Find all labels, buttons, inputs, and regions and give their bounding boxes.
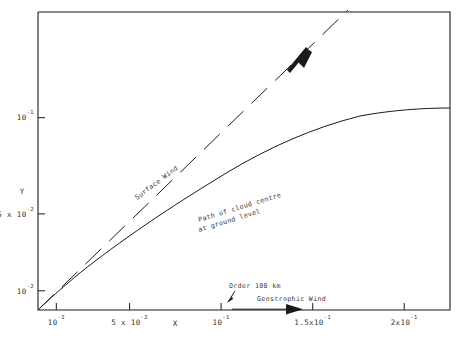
- x-tick-label-1: 10: [48, 318, 58, 327]
- y-tick-exp-3: -1: [27, 109, 34, 115]
- y-tick-exp-1: -2: [27, 283, 34, 289]
- y-tick-label-1: 10: [17, 287, 27, 296]
- x-tick-label-4: 1.5x10: [294, 318, 324, 327]
- svg-text:1.5x10-1: 1.5x10-1: [294, 314, 331, 327]
- x-tick-exp-2: -2: [141, 314, 148, 320]
- y-axis-ticks: [38, 118, 45, 291]
- order-100km-label: Order 100 km: [229, 282, 281, 290]
- x-tick-exp-5: -1: [410, 314, 417, 320]
- x-axis-tick-labels: 10-2 5 x 10-2 10-1 1.5x10-1 2x10-1: [48, 314, 418, 327]
- x-axis-ticks: [56, 303, 404, 310]
- x-tick-exp-4: -1: [324, 314, 331, 320]
- geostrophic-wind-arrow: [232, 304, 303, 314]
- surface-wind-label: Surface Wind: [133, 164, 179, 202]
- plot-canvas: 10-2 5 x 10-2 10-1 1.5x10-1 2x10-1 10-2 …: [0, 0, 460, 338]
- y-tick-label-2: 5 x 10: [0, 210, 27, 219]
- svg-text:10-2: 10-2: [48, 314, 65, 327]
- svg-text:10-1: 10-1: [17, 109, 34, 122]
- geostrophic-wind-label: Geostrophic Wind: [257, 295, 326, 303]
- x-tick-exp-3: -1: [222, 314, 229, 320]
- svg-text:2x10-1: 2x10-1: [391, 314, 418, 327]
- svg-text:5 x 10-2: 5 x 10-2: [0, 206, 34, 219]
- x-tick-label-3: 10: [213, 318, 223, 327]
- y-tick-exp-2: -2: [27, 206, 34, 212]
- surface-wind-arrow: [287, 47, 312, 73]
- x-tick-label-2: 5 x 10: [111, 318, 141, 327]
- svg-text:10-2: 10-2: [17, 283, 34, 296]
- svg-text:5 x 10-2: 5 x 10-2: [111, 314, 148, 327]
- order-100km-arrow: [227, 291, 235, 303]
- x-tick-label-5: 2x10: [391, 318, 411, 327]
- plot-frame: [38, 12, 450, 310]
- y-axis-tick-labels: 10-2 5 x 10-2 10-1: [0, 109, 34, 295]
- figure-container: 10-2 5 x 10-2 10-1 1.5x10-1 2x10-1 10-2 …: [0, 0, 460, 338]
- svg-text:10-1: 10-1: [213, 314, 230, 327]
- x-axis-label: X: [173, 319, 178, 328]
- y-axis-label: Y: [20, 187, 25, 196]
- x-tick-exp-1: -2: [58, 314, 65, 320]
- y-tick-label-3: 10: [17, 113, 27, 122]
